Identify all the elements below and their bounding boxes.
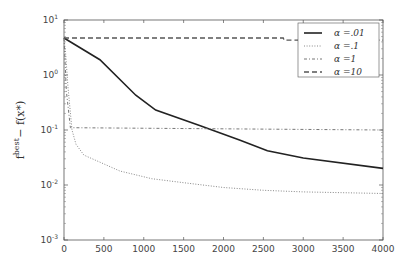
x-tick-label: 1500 [172,244,195,254]
legend-label: α =.1 [334,41,359,51]
x-tick-label: 2000 [212,244,235,254]
y-tick-label: 10-1 [41,123,59,135]
y-axis-label: fbest − f(x*) [12,101,27,160]
x-tick-label: 2500 [252,244,275,254]
y-tick-label: 100 [43,68,58,80]
ylabel-sup: best [12,137,21,155]
x-tick-label: 3000 [292,244,315,254]
legend-label: α =1 [334,54,356,64]
svg-text:fbest − f(x*): fbest − f(x*) [12,101,27,160]
x-tick-label: 1000 [132,244,155,254]
y-tick-label: 101 [43,13,58,25]
legend-label: α =.01 [334,28,365,38]
x-tick-label: 500 [95,244,112,254]
convergence-chart: 05001000150020002500300035004000 1011001… [0,0,398,270]
x-tick-label: 4000 [372,244,395,254]
ylabel-rest: − f(x*) [14,101,27,138]
x-tick-label: 0 [61,244,67,254]
y-tick-label: 10-3 [41,233,59,245]
legend: α =.01α =.1α =1α =10 [298,23,379,77]
legend-label: α =10 [334,67,362,77]
x-tick-label: 3500 [332,244,355,254]
y-tick-label: 10-2 [41,178,59,190]
